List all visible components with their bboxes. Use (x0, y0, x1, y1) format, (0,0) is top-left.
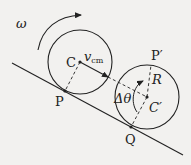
omega-rotation-arrow (38, 15, 81, 50)
omega-label: ω (16, 16, 27, 31)
delta-theta-label: Δθ (113, 91, 131, 106)
contact-p-label: P (55, 94, 64, 109)
radius-cpprime-dashed (147, 65, 151, 97)
contact-p-dot (63, 89, 66, 92)
contact-q-label: Q (125, 132, 136, 147)
center-cprime-dot (145, 95, 148, 98)
rolling-wheel-diagram: ω vcm C P Δθ P′ R C′ Q (0, 0, 191, 165)
point-r-label: R (151, 72, 162, 87)
point-pprime-label: P′ (151, 48, 163, 63)
contact-q-dot (129, 125, 132, 128)
velocity-label: vcm (84, 49, 104, 65)
center-cprime-label: C′ (149, 100, 162, 115)
center-c-label: C (66, 55, 76, 70)
